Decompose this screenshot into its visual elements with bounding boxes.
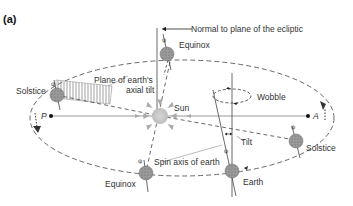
svg-text:ψ: ψ	[51, 81, 55, 87]
plane-label-line1: Plane of earth's	[94, 76, 153, 85]
right-direction-arrow	[320, 101, 326, 120]
earth-label: Earth	[243, 178, 263, 187]
earth-equinox-top: ψ	[160, 34, 174, 70]
earth-solstice-right: ψ	[289, 124, 303, 158]
spin-axis-label: Spin axis of earth	[154, 158, 220, 167]
sun-label: Sun	[174, 104, 189, 113]
svg-text:ψ: ψ	[138, 158, 142, 164]
earth-equinox-bottom: ψ	[138, 158, 153, 192]
aphelion-point	[306, 114, 310, 118]
equinox-top-label: Equinox	[179, 41, 210, 50]
equinox-axis-dash	[164, 60, 168, 75]
wobble-label: Wobble	[257, 93, 286, 102]
perihelion-point	[49, 114, 53, 118]
sun-solstice-line	[160, 116, 295, 140]
equinox-bottom-label: Equinox	[105, 180, 136, 189]
aphelion-label: A	[313, 112, 319, 121]
tilt-label: Tilt	[241, 138, 252, 147]
svg-text:ψ: ψ	[291, 124, 295, 130]
panel-label: (a)	[3, 13, 16, 25]
perihelion-label: P	[41, 112, 47, 121]
earth-current: ψ	[224, 148, 248, 178]
normal-label: Normal to plane of the ecliptic	[191, 25, 303, 34]
left-direction-arrow	[33, 113, 41, 133]
solstice-right-label: Solstice	[306, 144, 336, 153]
orbit-diagram: ψ ψ ψ ψ ψ	[0, 0, 353, 206]
plane-label-line2: axial tilt	[126, 86, 154, 95]
solstice-left-label: Solstice	[16, 87, 46, 96]
svg-text:ψ: ψ	[162, 37, 166, 43]
svg-text:ψ: ψ	[224, 148, 228, 154]
